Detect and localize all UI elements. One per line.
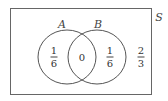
- region-a-only-value: 1 6: [51, 46, 58, 69]
- numerator: 1: [51, 46, 57, 56]
- set-b-label: B: [94, 19, 102, 30]
- region-outside-value: 2 3: [138, 46, 145, 69]
- numerator: 2: [138, 46, 144, 56]
- denominator: 6: [51, 59, 57, 69]
- denominator: 3: [138, 59, 144, 69]
- universe-label: S: [155, 12, 163, 23]
- region-b-only-value: 1 6: [107, 46, 114, 69]
- set-b-circle: [68, 30, 126, 84]
- set-a-circle: [38, 30, 96, 84]
- region-intersection-value: 0: [79, 52, 85, 63]
- set-a-label: A: [58, 19, 66, 30]
- denominator: 6: [107, 59, 113, 69]
- numerator: 1: [107, 46, 113, 56]
